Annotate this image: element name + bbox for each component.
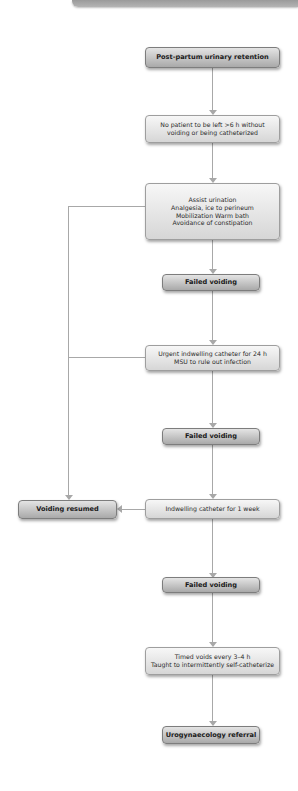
node-label: voiding or being catheterized xyxy=(167,129,258,137)
node-label: Voiding resumed xyxy=(36,505,99,513)
node-label: Indwelling catheter for 1 week xyxy=(165,505,259,513)
connector-start-to-no-patient xyxy=(212,68,213,110)
node-label: MSU to rule out infection xyxy=(174,358,251,366)
node-voiding-resumed: Voiding resumed xyxy=(18,500,117,519)
connector-week-to-resumed xyxy=(122,509,145,510)
node-failed-voiding-3: Failed voiding xyxy=(162,577,260,593)
node-catheter-one-week: Indwelling catheter for 1 week xyxy=(145,499,280,519)
node-label: Urogynaecology referral xyxy=(166,731,257,739)
node-assist-urination: Assist urination Analgesia, ice to perin… xyxy=(145,183,280,240)
connector-urgent-to-failed-2 xyxy=(212,371,213,423)
node-label: No patient to be left >6 h without xyxy=(160,121,264,129)
node-label: Post-partum urinary retention xyxy=(156,53,268,61)
node-timed-voids: Timed voids every 3–4 h Taught to interm… xyxy=(145,647,280,675)
node-label: Failed voiding xyxy=(185,278,237,286)
node-urogynaecology-referral: Urogynaecology referral xyxy=(162,726,260,744)
connector-failed-2-to-week xyxy=(212,445,213,494)
node-label: Avoidance of constipation xyxy=(173,219,253,227)
connector-assist-to-left-rail xyxy=(68,206,145,207)
header-bar xyxy=(72,0,298,7)
node-urgent-catheter: Urgent indwelling catheter for 24 h MSU … xyxy=(145,345,280,371)
node-label: Taught to intermittently self-catheteriz… xyxy=(151,661,274,669)
node-failed-voiding-2: Failed voiding xyxy=(162,428,260,445)
connector-left-rail xyxy=(68,206,69,495)
node-label: Urgent indwelling catheter for 24 h xyxy=(158,350,267,358)
node-label: Timed voids every 3–4 h xyxy=(175,653,251,661)
connector-assist-to-failed-1 xyxy=(212,240,213,269)
node-failed-voiding-1: Failed voiding xyxy=(162,274,260,291)
node-label: Failed voiding xyxy=(185,432,237,440)
node-label: Failed voiding xyxy=(185,581,237,589)
node-label: Mobilization Warm bath xyxy=(176,212,249,220)
connector-timed-to-referral xyxy=(212,675,213,721)
node-no-patient-left: No patient to be left >6 h without voidi… xyxy=(145,115,280,143)
connector-failed-1-to-urgent xyxy=(212,291,213,340)
node-label: Analgesia, ice to perineum xyxy=(171,204,254,212)
connector-week-to-failed-3 xyxy=(212,519,213,573)
connector-urgent-to-left-rail xyxy=(68,357,145,358)
node-post-partum-retention: Post-partum urinary retention xyxy=(145,47,280,68)
node-label: Assist urination xyxy=(189,196,237,204)
arrow-head-icon xyxy=(117,505,122,513)
connector-failed-3-to-timed xyxy=(212,592,213,642)
connector-no-patient-to-assist xyxy=(212,143,213,178)
